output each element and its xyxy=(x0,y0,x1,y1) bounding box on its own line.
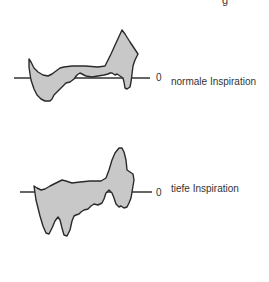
caption-normal-inspiration: normale Inspiration xyxy=(171,76,256,87)
caption-deep-inspiration: tiefe Inspiration xyxy=(171,183,239,194)
waveform-normal-inspiration xyxy=(14,30,150,101)
zero-label: 0 xyxy=(156,187,162,198)
waveform-deep-inspiration xyxy=(20,148,152,236)
waveform-shape xyxy=(29,30,138,101)
zero-label: 0 xyxy=(156,72,162,83)
waveform-figure xyxy=(0,0,269,282)
waveform-shape xyxy=(34,148,134,236)
